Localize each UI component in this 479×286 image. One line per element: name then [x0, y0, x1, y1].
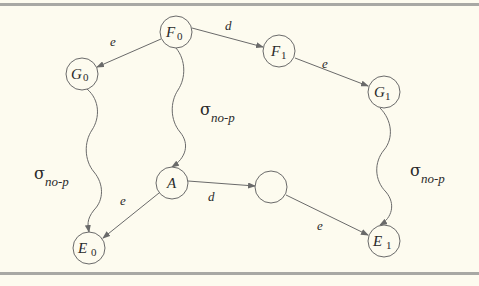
node-A: A: [156, 167, 188, 199]
sigma-label-right: σ no-p: [410, 161, 445, 186]
sigma-subscript: no-p: [45, 174, 69, 189]
svg-text:A: A: [166, 175, 177, 191]
wavy-edge-G1-E1: [377, 108, 392, 225]
svg-text:0: 0: [83, 71, 89, 83]
svg-text:0: 0: [177, 30, 183, 42]
node-empty: [255, 171, 287, 203]
sigma-subscript: no-p: [421, 171, 445, 186]
node-G1: G 1: [368, 76, 400, 108]
svg-text:E: E: [372, 233, 382, 249]
svg-text:1: 1: [385, 90, 391, 102]
svg-text:F: F: [165, 24, 176, 40]
sigma-label-middle: σ no-p: [200, 100, 235, 125]
diagram-canvas: e d e e d e σ no-p σ no-p σ no-p F 0 G 0: [0, 0, 479, 286]
state-diagram: e d e e d e σ no-p σ no-p σ no-p F 0 G 0: [0, 0, 479, 286]
sigma-label-left: σ no-p: [34, 164, 69, 189]
edge-label-e-F1-G1: e: [322, 56, 328, 71]
edge-label-e-A-E0: e: [120, 193, 126, 208]
wavy-edge-G0-E0: [86, 89, 101, 232]
svg-text:G: G: [374, 84, 385, 100]
edge-label-e-F0-G0: e: [110, 34, 116, 49]
edge-label-d-F0-F1: d: [225, 18, 232, 33]
sigma-symbol: σ: [34, 164, 45, 183]
edge-A-E0: [103, 193, 159, 238]
edge-label-e-empty-E1: e: [317, 218, 323, 233]
edge-empty-E1: [286, 195, 368, 235]
edge-F1-G1: [295, 58, 368, 86]
node-F1: F 1: [263, 35, 295, 67]
svg-text:F: F: [270, 43, 281, 59]
wavy-edge-F0-A: [172, 48, 186, 167]
svg-text:0: 0: [91, 246, 97, 258]
node-F0: F 0: [160, 16, 192, 48]
node-E0: E 0: [73, 232, 105, 264]
edge-A-empty: [188, 181, 255, 186]
sigma-subscript: no-p: [211, 110, 235, 125]
svg-text:G: G: [71, 66, 82, 82]
sigma-symbol: σ: [200, 100, 211, 119]
node-E1: E 1: [368, 225, 400, 257]
svg-text:1: 1: [386, 239, 392, 251]
svg-text:E: E: [77, 240, 87, 256]
sigma-symbol: σ: [410, 161, 421, 180]
edge-F0-G0: [97, 39, 161, 67]
svg-text:1: 1: [281, 49, 287, 61]
node-G0: G 0: [66, 58, 98, 90]
edge-label-d-A-empty: d: [208, 189, 215, 204]
